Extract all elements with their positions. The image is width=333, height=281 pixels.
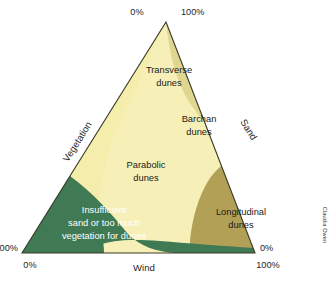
region-label-transverse-line2: dunes [156, 78, 182, 88]
credit-label: Claudia Owen [322, 207, 328, 243]
region-label-barchan-line1: Barchan [182, 114, 217, 124]
region-label-barchan-line2: dunes [186, 127, 212, 137]
region-label-longitudinal-line1: Longitudinal [216, 207, 266, 217]
corner-label-apex-left: 0% [130, 7, 143, 17]
corner-label-bottom-right-upper: 0% [260, 243, 273, 253]
ternary-diagram: Transverse dunes Barchan dunes Parabolic… [0, 0, 333, 281]
region-label-longitudinal-line2: dunes [228, 220, 254, 230]
region-label-insufficient-line3: vegetation for dunes [62, 231, 147, 241]
axis-label-sand: Sand [238, 117, 259, 142]
region-label-parabolic-line2: dunes [133, 173, 159, 183]
region-label-transverse-line1: Transverse [146, 65, 192, 75]
region-label-parabolic-line1: Parabolic [127, 160, 166, 170]
axis-label-wind: Wind [133, 262, 155, 273]
corner-label-bottom-left-upper: 100% [0, 243, 18, 253]
corner-label-apex-right: 100% [181, 7, 205, 17]
corner-label-bottom-right-lower: 100% [256, 260, 280, 270]
ternary-diagram-canvas: Transverse dunes Barchan dunes Parabolic… [0, 0, 333, 281]
corner-label-bottom-left-lower: 0% [23, 260, 36, 270]
region-label-insufficient-line2: sand or too much [68, 218, 140, 228]
region-label-insufficient-line1: Insufficient [82, 205, 127, 215]
